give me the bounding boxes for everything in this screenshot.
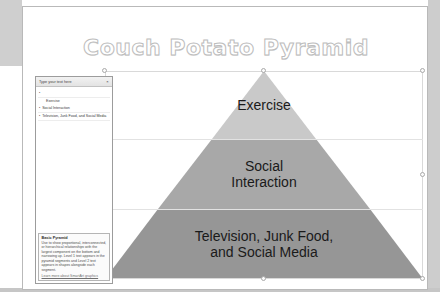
resize-handle-top-center[interactable] — [261, 68, 266, 73]
bullet-icon: • — [39, 114, 40, 119]
resize-handle-bottom-right[interactable] — [420, 276, 425, 281]
close-icon[interactable]: × — [105, 79, 110, 84]
resize-handle-bottom-center[interactable] — [261, 276, 266, 281]
pyramid-tier-top-label: Exercise — [237, 97, 291, 113]
description-title: Basic Pyramid — [42, 236, 107, 240]
bullet-icon: • — [39, 91, 40, 96]
list-item[interactable]: Exercise — [38, 98, 110, 105]
list-item-label: Exercise — [46, 99, 60, 103]
text-pane-title: Type your text here — [36, 80, 72, 84]
learn-more-link[interactable]: Learn more about SmartArt graphics — [42, 274, 107, 278]
text-pane-list[interactable]: • Exercise • Social Interaction • Televi… — [36, 87, 112, 236]
app-chrome-top-left — [0, 0, 22, 66]
pyramid-tier-bottom-line2: and Social Media — [210, 244, 317, 260]
list-item[interactable]: • — [38, 90, 110, 98]
slide-title[interactable]: Couch Potato Pyramid — [23, 35, 428, 60]
list-item[interactable]: • Social Interaction — [38, 105, 110, 113]
pyramid-tier-middle-line1: Social — [245, 158, 283, 174]
smartart-text-pane[interactable]: Type your text here × • Exercise • Socia… — [35, 76, 113, 284]
text-pane-header: Type your text here × — [36, 77, 112, 87]
pyramid-tier-bottom-label: Television, Junk Food, and Social Media — [195, 228, 334, 260]
pyramid-tier-middle-label: Social Interaction — [231, 158, 296, 190]
resize-handle-top-left[interactable] — [102, 68, 107, 73]
powerpoint-slide-editor: Couch Potato Pyramid Exercise Social Int… — [0, 0, 440, 304]
resize-handle-top-right[interactable] — [420, 68, 425, 73]
smartart-frame-divider-lower — [105, 209, 423, 210]
slide-canvas[interactable]: Couch Potato Pyramid Exercise Social Int… — [22, 6, 428, 290]
list-item-label: Television, Junk Food, and Social Media — [42, 114, 106, 118]
caption-text — [14, 293, 264, 304]
app-chrome-right — [428, 0, 440, 292]
smartart-frame-divider-upper — [105, 139, 423, 140]
list-item-label: Social Interaction — [42, 106, 70, 110]
pyramid-tier-middle-line2: Interaction — [231, 174, 296, 190]
description-body: Use to show proportional, interconnected… — [42, 241, 107, 273]
text-pane-description: Basic Pyramid Use to show proportional, … — [38, 233, 110, 281]
list-item[interactable]: • Television, Junk Food, and Social Medi… — [38, 113, 110, 121]
resize-handle-middle-right[interactable] — [420, 172, 425, 177]
pyramid-tier-bottom-line1: Television, Junk Food, — [195, 228, 334, 244]
bullet-icon: • — [39, 106, 40, 111]
